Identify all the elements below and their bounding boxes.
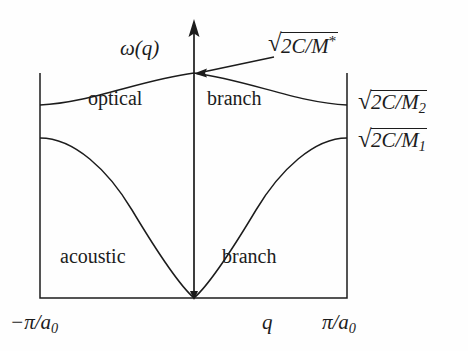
acoustic-branch-label-left: acoustic [60,246,126,266]
x-axis-min-subscript: 0 [51,320,58,336]
optical-edge-frequency-label: √2C/M2 [358,90,427,115]
x-axis-max-subscript: 0 [349,320,356,336]
radical-group-m1: √2C/M1 [358,128,427,153]
dispersion-plot-svg [0,0,468,351]
optical-edge-subscript: 2 [419,100,426,116]
radical-body-m2: 2C/M2 [371,90,428,115]
peak-label-expression: 2C/M [281,34,329,58]
x-axis-max-expression: π/a [322,310,349,334]
optical-branch-label-right: branch [207,88,261,108]
radical-group-mstar: √2C/M* [268,32,338,57]
x-axis-min-expression: −π/a [10,310,51,334]
radical-sign-icon: √ [358,127,372,152]
acoustic-branch-label-right: branch [222,246,276,266]
radical-body-mstar: 2C/M* [281,32,338,57]
phonon-dispersion-figure: ω(q) √2C/M* √2C/M2 √2C/M1 optical branch… [0,0,468,351]
optical-branch-label-left: optical [88,88,142,108]
peak-annotation-arrowhead [194,69,207,78]
acoustic-edge-expression: 2C/M [371,128,419,152]
y-axis-label: ω(q) [120,38,159,59]
radical-group-m2: √2C/M2 [358,90,427,115]
radical-body-m1: 2C/M1 [371,128,428,153]
acoustic-edge-subscript: 1 [419,138,426,154]
x-axis-label: q [262,312,273,333]
radical-sign-icon: √ [358,89,372,114]
optical-edge-expression: 2C/M [371,90,419,114]
x-axis-max-label: π/a0 [322,312,356,335]
peak-annotation-leader [203,57,274,72]
x-axis-min-label: −π/a0 [10,312,58,335]
peak-label-superscript: * [329,33,337,49]
radical-sign-icon: √ [268,31,282,56]
peak-frequency-label: √2C/M* [268,32,338,57]
acoustic-edge-frequency-label: √2C/M1 [358,128,427,153]
